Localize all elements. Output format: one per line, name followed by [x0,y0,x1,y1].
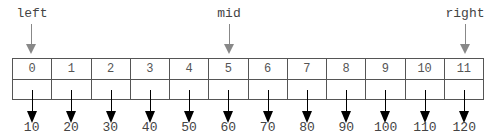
array-cell: 7 [288,59,327,99]
cell-value: 80 [287,120,326,135]
cell-index: 7 [288,59,326,80]
array-cell: 2 [92,59,131,99]
cell-index: 2 [92,59,130,80]
arrow-down-icon [71,90,72,112]
cell-index: 6 [249,59,287,80]
arrow-down-icon [346,90,347,112]
cell-index: 0 [13,59,51,80]
cell-value: 70 [248,120,287,135]
arrow-down-icon [32,90,33,112]
arrow-down-icon [189,90,190,112]
arrow-down-icon [465,24,466,46]
array-cell: 4 [170,59,209,99]
pointer-mid-label: mid [217,6,240,21]
cell-value: 30 [91,120,130,135]
array-cell: 11 [445,59,483,99]
array-cell: 9 [366,59,405,99]
arrow-down-icon [31,24,32,46]
cell-index: 8 [327,59,365,80]
cell-value: 100 [366,120,405,135]
arrow-down-icon [385,90,386,112]
cell-value: 110 [405,120,444,135]
arrow-down-icon [111,90,112,112]
cell-index: 1 [52,59,90,80]
cell-value: 20 [51,120,90,135]
pointer-left-label: left [16,6,47,21]
arrow-down-icon [229,24,230,46]
cell-value: 60 [209,120,248,135]
array-cell: 0 [13,59,52,99]
array-cell: 10 [406,59,445,99]
arrow-down-icon [150,90,151,112]
cell-index: 4 [170,59,208,80]
array-diagram: 0 1 2 3 4 5 6 7 8 9 10 11 [12,58,484,100]
cell-value: 90 [327,120,366,135]
cell-value: 40 [130,120,169,135]
cell-value: 50 [169,120,208,135]
arrow-down-icon [268,90,269,112]
cell-index: 9 [366,59,404,80]
cell-index: 5 [209,59,247,80]
cell-value: 120 [445,120,484,135]
pointer-right-label: right [445,6,484,21]
cell-index: 11 [445,59,483,80]
array-cell: 1 [52,59,91,99]
cell-index: 10 [406,59,444,80]
arrow-down-icon [425,90,426,112]
array-cell: 6 [249,59,288,99]
cell-index: 3 [131,59,169,80]
cell-value: 10 [12,120,51,135]
arrow-down-icon [464,90,465,112]
value-row: 10 20 30 40 50 60 70 80 90 100 110 120 [12,120,484,135]
array-cell: 8 [327,59,366,99]
arrow-down-icon [307,90,308,112]
array-cell: 5 [209,59,248,99]
arrow-down-icon [228,90,229,112]
array-cell: 3 [131,59,170,99]
